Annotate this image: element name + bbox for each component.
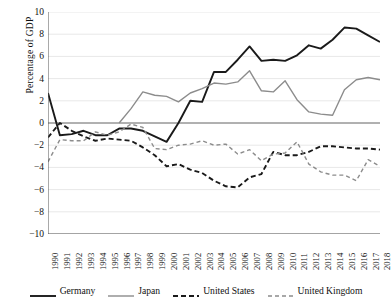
legend-item-japan[interactable]: Japan	[108, 285, 160, 296]
plot-area	[48, 12, 380, 234]
x-tick-label: 2005	[229, 253, 238, 270]
x-tick-label: 1994	[99, 253, 108, 270]
x-tick-label: 2007	[253, 253, 262, 270]
y-tick-label: −4	[4, 162, 44, 172]
x-tick-label: 2017	[372, 253, 381, 270]
legend-item-united-kingdom[interactable]: United Kingdom	[268, 285, 363, 296]
y-tick-label: 8	[4, 29, 44, 39]
legend-label: Germany	[60, 285, 96, 296]
series-line-united-kingdom	[48, 124, 380, 181]
x-tick-label: 2004	[217, 253, 226, 270]
x-tick-label: 2012	[312, 253, 321, 270]
x-tick-label: 1999	[158, 253, 167, 270]
x-tick-label: 2011	[300, 253, 309, 270]
y-tick-label: 2	[4, 96, 44, 106]
legend-swatch-icon	[173, 286, 199, 294]
line-chart-svg	[48, 12, 380, 234]
y-tick-label: −8	[4, 207, 44, 217]
x-tick-label: 2000	[170, 253, 179, 270]
x-tick-label: 2009	[277, 253, 286, 270]
legend-swatch-icon	[268, 286, 294, 294]
x-axis-tick-labels: 1990199119921993199419951996199719981999…	[48, 238, 380, 280]
y-tick-label: −10	[4, 229, 44, 239]
x-tick-label: 2014	[336, 253, 345, 270]
series-line-germany	[48, 28, 380, 142]
legend-label: Japan	[138, 285, 160, 296]
legend-label: United States	[203, 285, 254, 296]
x-tick-label: 2013	[324, 253, 333, 270]
y-tick-label: 4	[4, 74, 44, 84]
legend-item-united-states[interactable]: United States	[173, 285, 254, 296]
y-tick-label: 10	[4, 7, 44, 17]
x-tick-label: 2008	[265, 253, 274, 270]
chart-legend: GermanyJapanUnited StatesUnited Kingdom	[0, 281, 392, 299]
y-tick-label: −2	[4, 140, 44, 150]
x-tick-label: 2001	[182, 253, 191, 270]
x-tick-label: 2015	[348, 253, 357, 270]
legend-item-germany[interactable]: Germany	[30, 285, 96, 296]
x-tick-label: 2002	[194, 253, 203, 270]
data-series	[48, 28, 380, 188]
legend-swatch-icon	[108, 286, 134, 294]
x-tick-label: 2010	[289, 253, 298, 270]
x-tick-label: 1997	[134, 253, 143, 270]
x-tick-label: 2018	[383, 253, 392, 270]
chart-figure: Percentage of GDP 1086420−2−4−6−8−10 199…	[0, 0, 392, 301]
y-tick-label: −6	[4, 185, 44, 195]
legend-label: United Kingdom	[298, 285, 363, 296]
x-tick-label: 1993	[87, 253, 96, 270]
y-tick-label: 6	[4, 51, 44, 61]
x-tick-label: 2016	[360, 253, 369, 270]
x-tick-label: 1996	[123, 253, 132, 270]
legend-swatch-icon	[30, 286, 56, 294]
x-tick-label: 1991	[63, 253, 72, 270]
y-tick-label: 0	[4, 118, 44, 128]
x-tick-label: 2003	[206, 253, 215, 270]
x-tick-label: 2006	[241, 253, 250, 270]
x-tick-label: 1998	[146, 253, 155, 270]
x-tick-label: 1990	[51, 253, 60, 270]
x-tick-label: 1992	[75, 253, 84, 270]
x-tick-label: 1995	[111, 253, 120, 270]
